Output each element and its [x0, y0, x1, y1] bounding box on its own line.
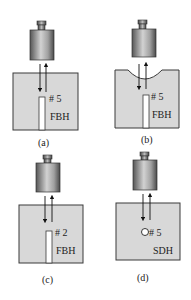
- transducer: [133, 152, 157, 190]
- transducer-connector-icon: [140, 152, 149, 156]
- hole-number-label: # 5: [149, 227, 162, 238]
- hole-type-label: FBH: [50, 111, 69, 122]
- flat-bottom-hole: [39, 97, 45, 130]
- transducer-connector-icon: [43, 155, 52, 159]
- panel-c: # 2 FBH (c): [19, 155, 83, 286]
- transducer: [132, 20, 156, 57]
- panel-d: # 5 SDH (d): [116, 152, 180, 284]
- panel-caption: (a): [38, 137, 49, 149]
- transducer-body-icon: [133, 160, 157, 190]
- transducer: [36, 155, 60, 192]
- ultrasonic-reference-diagram: # 5 FBH (a) # 5 FBH (b) # 2 FBH (c): [0, 0, 191, 300]
- panel-caption: (d): [137, 272, 149, 284]
- transducer-connector-icon: [37, 21, 46, 25]
- transducer-body-icon: [30, 30, 54, 60]
- hole-number-label: # 5: [151, 91, 164, 102]
- hole-type-label: FBH: [56, 245, 75, 256]
- flat-bottom-hole: [143, 95, 149, 128]
- panel-a: # 5 FBH (a): [13, 21, 78, 149]
- transducer-connector-icon: [138, 20, 147, 24]
- hole-type-label: SDH: [153, 245, 173, 256]
- panel-b: # 5 FBH (b): [115, 20, 179, 146]
- transducer-body-icon: [36, 163, 60, 192]
- hole-number-label: # 2: [55, 227, 68, 238]
- flat-bottom-hole: [46, 231, 52, 263]
- hole-number-label: # 5: [49, 93, 62, 104]
- side-drilled-hole: [142, 229, 149, 236]
- panel-caption: (b): [141, 134, 153, 146]
- transducer: [30, 21, 54, 60]
- transducer-body-icon: [132, 29, 156, 57]
- hole-type-label: FBH: [152, 109, 171, 120]
- panel-caption: (c): [42, 274, 53, 286]
